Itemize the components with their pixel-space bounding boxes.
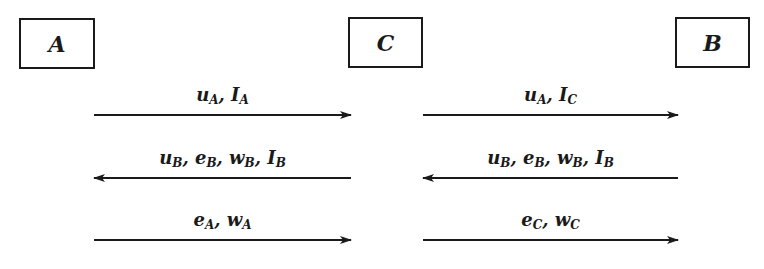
- variable-subscript: C: [570, 218, 580, 232]
- entity-label: A: [48, 31, 65, 57]
- variable-subscript: A: [209, 93, 218, 107]
- variable: e: [521, 209, 532, 230]
- variable-subscript: A: [205, 218, 214, 232]
- variable: e: [193, 209, 204, 230]
- message-label: uA, IC: [401, 85, 701, 110]
- variable: w: [555, 209, 571, 230]
- message-label: uB, eB, wB, IB: [73, 148, 373, 173]
- variable: I: [267, 147, 275, 168]
- variable-subscript: B: [206, 156, 216, 170]
- variable-subscript: B: [604, 156, 614, 170]
- variable: w: [227, 209, 243, 230]
- variable-subscript: A: [537, 93, 546, 107]
- variable-subscript: B: [172, 156, 182, 170]
- variable: w: [229, 147, 245, 168]
- variable-subscript: C: [567, 93, 577, 107]
- variable-subscript: B: [573, 156, 583, 170]
- variable: u: [487, 147, 500, 168]
- variable-subscript: B: [276, 156, 286, 170]
- variable: e: [523, 147, 534, 168]
- message-label: eA, wA: [73, 210, 373, 235]
- variable: u: [159, 147, 172, 168]
- variable-subscript: B: [245, 156, 255, 170]
- entity-box-b: B: [675, 17, 750, 68]
- variable-subscript: B: [500, 156, 510, 170]
- variable-subscript: A: [240, 93, 249, 107]
- variable-subscript: B: [534, 156, 544, 170]
- entity-label: B: [703, 30, 722, 56]
- entity-box-a: A: [19, 18, 95, 69]
- message-label: uB, eB, wB, IB: [401, 148, 701, 173]
- variable: I: [231, 84, 239, 105]
- message-label: uA, IA: [73, 85, 373, 110]
- variable: u: [196, 84, 209, 105]
- message-label: eC, wC: [401, 210, 701, 235]
- variable: I: [595, 147, 603, 168]
- variable-subscript: A: [242, 218, 251, 232]
- variable: u: [524, 84, 537, 105]
- entity-box-c: C: [348, 17, 423, 68]
- entity-label: C: [377, 30, 395, 56]
- variable: w: [557, 147, 573, 168]
- variable: e: [195, 147, 206, 168]
- variable-subscript: C: [533, 218, 543, 232]
